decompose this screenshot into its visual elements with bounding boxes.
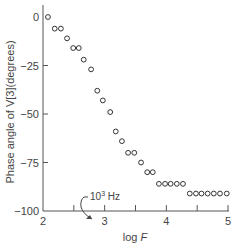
- data-point: [139, 160, 144, 165]
- data-point: [108, 110, 113, 115]
- data-point: [126, 150, 131, 155]
- y-tick-label: −25: [20, 60, 39, 72]
- data-point: [224, 191, 229, 196]
- y-tick-label: −100: [14, 205, 39, 217]
- axes: [43, 5, 229, 211]
- x-axis-title-log: log: [123, 231, 141, 243]
- annotation-label: 103 Hz: [90, 190, 120, 202]
- data-point: [71, 46, 76, 51]
- data-point: [113, 129, 118, 134]
- x-tick-label: 2: [40, 215, 46, 227]
- data-point: [95, 88, 100, 93]
- data-point: [132, 150, 137, 155]
- data-point: [163, 181, 168, 186]
- x-axis-title-var: F: [141, 231, 149, 243]
- y-tick-label: −75: [20, 157, 39, 169]
- data-point: [157, 181, 162, 186]
- data-point: [218, 191, 223, 196]
- annotation-unit: Hz: [105, 191, 120, 202]
- data-point: [205, 191, 210, 196]
- x-tick-label: 4: [163, 215, 169, 227]
- data-point: [174, 181, 179, 186]
- data-point: [65, 36, 70, 41]
- data-point: [89, 67, 94, 72]
- phase-angle-chart: 0−25−50−75−100 2345 Phase angle of V[3](…: [0, 0, 242, 251]
- data-point: [58, 26, 63, 31]
- x-tick-label: 5: [225, 215, 231, 227]
- y-axis-title: Phase angle of V[3](degrees): [4, 40, 16, 183]
- data-point: [199, 191, 204, 196]
- frequency-annotation: 103 Hz: [81, 190, 120, 219]
- x-tick-label: 3: [102, 215, 108, 227]
- annotation-base: 10: [90, 191, 102, 202]
- data-point: [194, 191, 199, 196]
- y-tick-label: −50: [20, 108, 39, 120]
- data-point: [46, 15, 51, 20]
- data-point: [145, 170, 150, 175]
- data-point: [52, 26, 57, 31]
- data-point: [81, 57, 86, 62]
- data-point: [120, 139, 125, 144]
- data-point: [150, 170, 155, 175]
- data-point: [76, 46, 81, 51]
- x-ticks: 2345: [40, 205, 231, 227]
- y-tick-label: 0: [33, 11, 39, 23]
- data-point: [187, 191, 192, 196]
- data-point: [211, 191, 216, 196]
- data-point: [168, 181, 173, 186]
- data-points: [46, 15, 230, 196]
- data-point: [100, 98, 105, 103]
- x-axis-title: log F: [123, 231, 149, 243]
- data-point: [181, 181, 186, 186]
